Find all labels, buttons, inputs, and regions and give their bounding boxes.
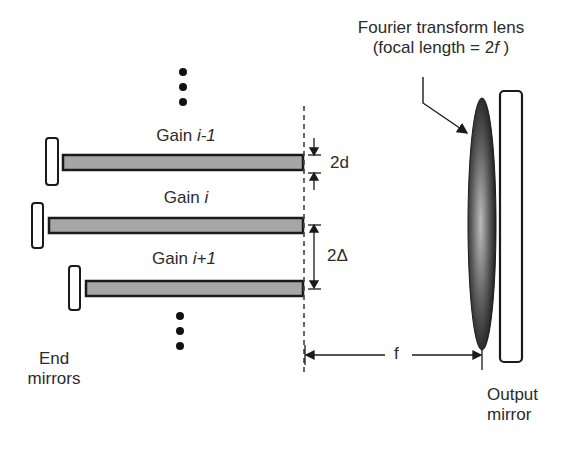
spacing-2d-label: 2d [330,153,349,173]
lens-pointer-arrow [423,77,467,133]
end-mirrors-line2: mirrors [18,369,90,389]
gain-label-i-plus-1: Gain i+1 [142,249,226,269]
gain-bar-1 [63,155,303,170]
spacing-2d-dimension [308,138,321,190]
lens-label-suffix: ) [499,38,509,57]
end-mirror-2 [32,203,43,248]
output-mirror-line2: mirror [487,405,538,425]
gain-label-i: Gain i [146,188,226,208]
gain-prefix: Gain [164,188,200,207]
spacing-2delta-label: 2Δ [327,246,348,266]
lens-label-line2: (focal length = 2f ) [336,38,546,58]
gain-index: i-1 [197,126,216,145]
gain-bar-3 [86,281,303,296]
gain-prefix: Gain [156,126,192,145]
laser-cavity-diagram: Gain i-1 Gain i Gain i+1 Fourier transfo… [0,0,573,449]
end-mirrors-line1: End [18,349,90,369]
gain-bar-2 [49,218,303,233]
lens-label: Fourier transform lens (focal length = 2… [336,18,546,57]
gain-prefix: Gain [152,249,188,268]
gain-index: i [204,188,208,207]
end-mirror-3 [69,266,80,310]
gain-index: i+1 [193,249,216,268]
output-mirror-line1: Output [487,385,538,405]
end-mirror-1 [46,138,58,185]
lens-label-line1: Fourier transform lens [336,18,546,38]
output-mirror-label: Output mirror [487,385,538,424]
ellipsis-top-icon [179,68,187,106]
output-mirror [500,91,522,362]
spacing-2delta-dimension [308,225,321,289]
focal-length-label: f [394,344,399,364]
gain-label-i-minus-1: Gain i-1 [146,126,226,146]
fourier-lens [468,98,496,350]
ellipsis-bottom-icon [176,312,184,350]
end-mirrors-label: End mirrors [18,349,90,388]
lens-label-prefix: (focal length = 2 [373,38,494,57]
